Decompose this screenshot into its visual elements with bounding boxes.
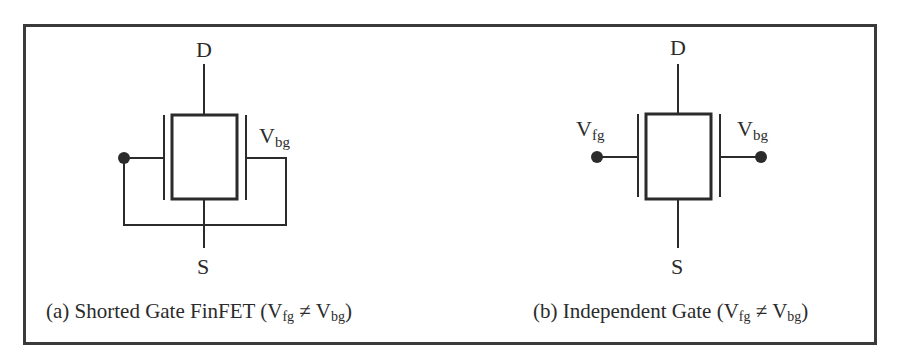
panel-b-vfg-label: Vfg: [576, 116, 605, 143]
front-gate-terminal-dot: [591, 151, 603, 163]
panel-a-vbg-label: Vbg: [259, 123, 290, 150]
channel-box: [172, 115, 237, 199]
panel-b-caption: (b) Independent Gate (Vfg ≠ Vbg): [533, 299, 808, 325]
panel-b-drain-label: D: [670, 35, 686, 60]
panel-b-vbg-label: Vbg: [737, 116, 768, 143]
panel-a-caption: (a) Shorted Gate FinFET (Vfg ≠ Vbg): [46, 299, 352, 325]
gate-terminal-dot: [118, 152, 130, 164]
back-gate-terminal-dot: [755, 151, 767, 163]
panel-a-shorted-gate: [118, 64, 286, 248]
panel-a-source-label: S: [197, 254, 209, 279]
panel-b-independent-gate: [591, 64, 767, 248]
panel-a-drain-label: D: [196, 37, 212, 62]
panel-b-source-label: S: [671, 254, 683, 279]
channel-box: [646, 114, 711, 199]
